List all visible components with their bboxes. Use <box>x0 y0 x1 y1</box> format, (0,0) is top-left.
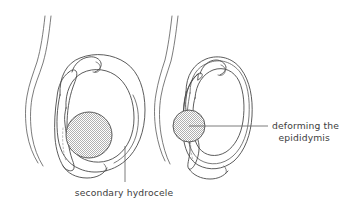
label-secondary-hydrocele: secondary hydrocele <box>75 187 174 198</box>
anatomy-figure: secondary hydrocele deforming the epidid… <box>0 0 339 207</box>
label-epididymis: epididymis <box>279 132 331 143</box>
label-deforming-the: deforming the <box>272 120 339 131</box>
canvas-background <box>0 0 339 207</box>
hydrocele-fluid-disc-left <box>66 112 112 158</box>
